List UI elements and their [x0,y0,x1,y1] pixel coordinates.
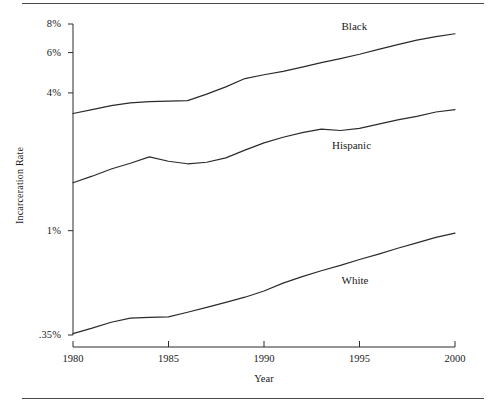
x-tick-label-2000: 2000 [433,354,477,365]
series-label-black: Black [342,21,368,32]
y-tick-label-6pct: 6% [21,48,61,59]
y-tick-label-035pct: .35% [21,330,61,341]
figure-container: 8% 6% 4% 1% .35% 1980 1985 1990 1995 200… [0,0,502,405]
series-label-hispanic: Hispanic [332,140,371,151]
y-tick-label-8pct: 8% [21,19,61,30]
y-tick-label-1pct: 1% [21,226,61,237]
x-tick-label-1985: 1985 [147,354,191,365]
series-label-white: White [342,275,369,286]
axis-lines [68,24,455,347]
series-lines [73,34,455,334]
y-tick-label-4pct: 4% [21,88,61,99]
x-tick-label-1990: 1990 [242,354,286,365]
line-chart-plot [0,0,502,405]
y-axis-title: Incarceration Rate [14,116,25,256]
x-axis-title: Year [224,373,304,384]
x-tick-label-1980: 1980 [51,354,95,365]
x-tick-label-1995: 1995 [338,354,382,365]
